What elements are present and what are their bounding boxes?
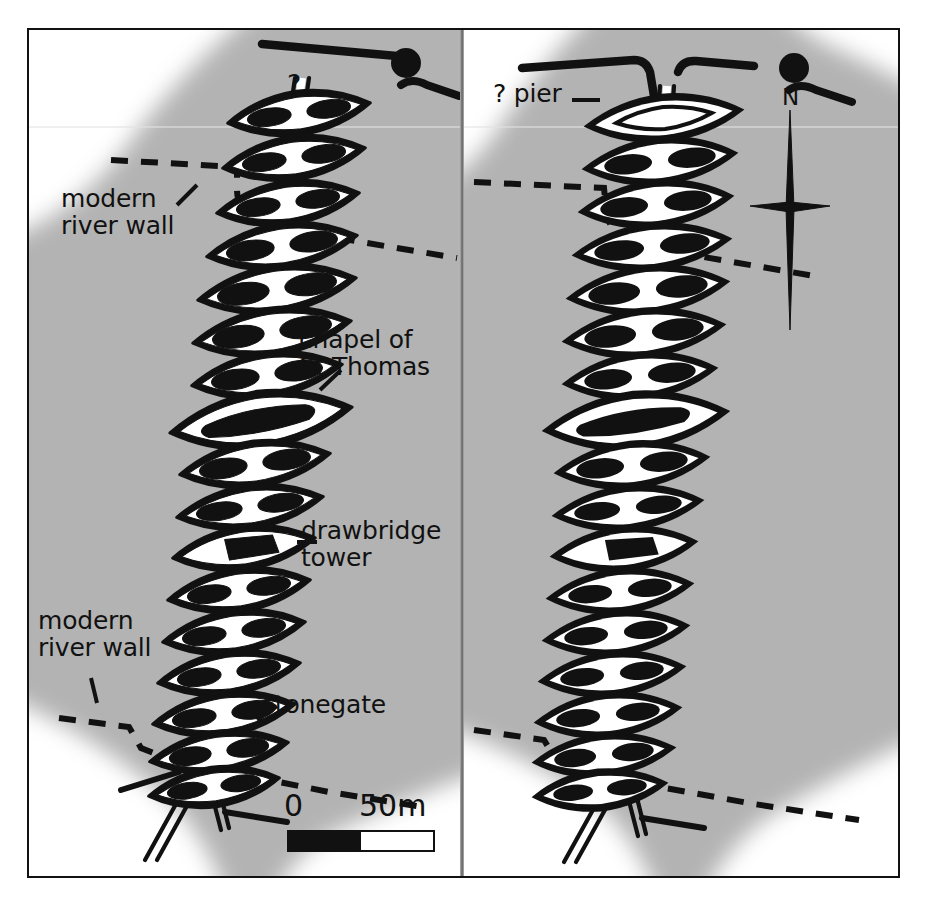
label-question-pier: ? pier <box>493 80 562 107</box>
scale-bar-segment-white <box>361 832 433 850</box>
scale-bar <box>287 830 435 852</box>
label-modern-river-wall-lower: modern river wall <box>38 607 151 661</box>
figure-root: ? modern river wall chapel of St Thomas … <box>0 0 927 907</box>
label-drawbridge-tower: drawbridge tower <box>301 517 441 571</box>
label-modern-river-wall-upper: modern river wall <box>61 185 174 239</box>
scale-zero-label: 0 <box>284 788 303 823</box>
right-plan-drawing <box>464 30 898 876</box>
figure-frame: ? modern river wall chapel of St Thomas … <box>27 28 900 878</box>
label-stonegate: stonegate <box>262 691 386 718</box>
left-plan-panel: ? modern river wall chapel of St Thomas … <box>29 30 460 876</box>
scale-max-label: 50m <box>359 788 426 823</box>
north-arrow-label: N <box>782 84 799 110</box>
left-plan-drawing <box>29 30 460 876</box>
scale-bar-segment-black <box>289 832 361 850</box>
label-question-top: ? <box>287 70 301 99</box>
right-plan-panel: ? pier N <box>464 30 898 876</box>
label-chapel-of-st-thomas: chapel of St Thomas <box>299 326 430 380</box>
